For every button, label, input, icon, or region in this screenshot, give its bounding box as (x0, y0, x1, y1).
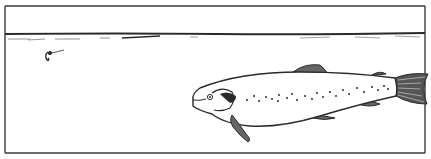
adipose-fin (372, 72, 386, 75)
salmon (193, 65, 428, 142)
fish-body (193, 72, 397, 126)
illustration (0, 0, 431, 159)
fish-drawing (0, 0, 431, 159)
fishing-fly (46, 50, 64, 60)
water-surface (5, 33, 425, 40)
